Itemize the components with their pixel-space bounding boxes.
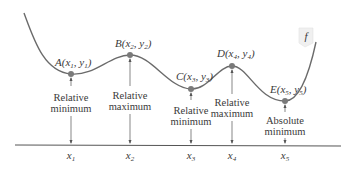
point-b-label: B(x2, y2) xyxy=(115,37,152,51)
point-d-desc-1: Relative xyxy=(215,97,250,108)
point-a-dot xyxy=(68,71,74,77)
point-a-desc-1: Relative xyxy=(54,92,89,103)
point-c-desc-1: Relative xyxy=(174,105,209,116)
point-e-desc-1: Absolute xyxy=(266,115,304,126)
point-d-dot xyxy=(229,63,235,69)
point-b-desc-2: maximum xyxy=(109,101,152,112)
point-a-label: A(x1, y1) xyxy=(54,56,92,70)
function-label-tag: f xyxy=(299,28,313,47)
point-b-dot xyxy=(127,52,133,58)
x-axis xyxy=(15,145,341,146)
point-e-dot xyxy=(282,98,288,104)
point-c-dot xyxy=(188,86,194,92)
point-c-label: C(x3, y3) xyxy=(176,70,213,84)
point-e: E(x5, y5) Absolute minimum x5 xyxy=(265,83,307,163)
x5-label: x5 xyxy=(280,149,290,163)
x3-label: x3 xyxy=(186,149,196,163)
point-d-label: D(x4, y4) xyxy=(216,47,255,61)
point-b-desc-1: Relative xyxy=(113,90,148,101)
x4-label: x4 xyxy=(227,149,237,163)
point-c-desc-2: minimum xyxy=(171,116,212,127)
x2-label: x2 xyxy=(125,149,135,163)
point-e-label: E(x5, y5) xyxy=(269,83,307,97)
point-e-desc-2: minimum xyxy=(265,126,306,137)
extrema-diagram: f A(x1, y1) Relative minimum x1 B(x2, y2… xyxy=(0,0,354,172)
point-b: B(x2, y2) Relative maximum x2 xyxy=(109,37,152,163)
point-a-desc-2: minimum xyxy=(51,103,92,114)
x1-label: x1 xyxy=(66,149,75,163)
point-d-desc-2: maximum xyxy=(211,108,254,119)
